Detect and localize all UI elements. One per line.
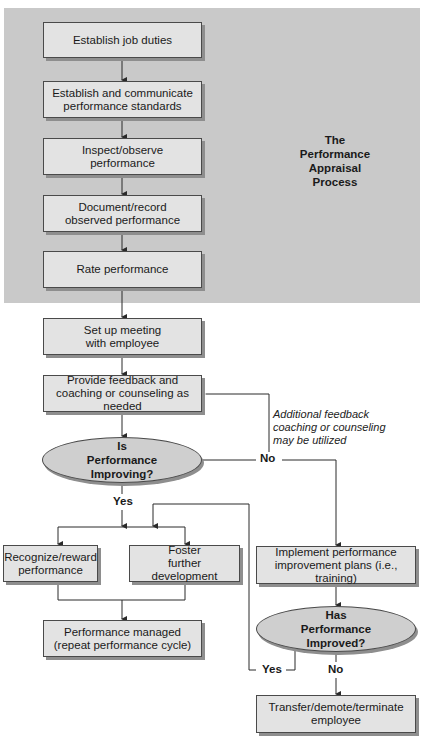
step-rate-performance: Rate performance [43,251,202,288]
step-establish-standards: Establish and communicate performance st… [43,81,202,118]
step-label: Establish job duties [73,34,172,47]
step-implement-improvement-plans: Implement performance improvement plans … [256,546,416,584]
decision-label: Is Performance Improving? [43,439,201,481]
step-foster-development: Foster further development [129,545,240,582]
step-label: Inspect/observe performance [48,144,197,170]
step-label: Performance managed (repeat performance … [48,626,197,652]
step-label: Set up meeting with employee [48,324,197,350]
decision-has-performance-improved: Has Performance Improved? [256,606,416,652]
step-provide-feedback: Provide feedback and coaching or counsel… [43,375,202,412]
decision-is-performance-improving: Is Performance Improving? [42,437,202,483]
step-setup-meeting: Set up meeting with employee [43,318,202,355]
step-label: Recognize/reward performance [4,551,97,577]
step-label: Implement performance improvement plans … [261,546,411,585]
step-establish-job-duties: Establish job duties [43,22,202,58]
feedback-loop-note: Additional feedback coaching or counseli… [273,408,393,447]
improving-no-label: No [258,452,277,464]
improved-no-label: No [326,663,345,675]
step-transfer-demote-terminate: Transfer/demote/terminate employee [256,695,416,733]
improved-yes-label: Yes [260,663,284,675]
step-label: Establish and communicate performance st… [48,87,197,113]
step-label: Rate performance [76,263,168,276]
improving-yes-label: Yes [111,495,135,507]
step-label: Document/record observed performance [48,201,197,227]
step-recognize-reward: Recognize/reward performance [3,545,98,582]
step-label: Provide feedback and coaching or counsel… [48,374,197,413]
step-label: Foster further development [134,544,236,583]
step-label: Transfer/demote/terminate employee [261,701,411,727]
decision-label: Has Performance Improved? [257,608,415,650]
step-performance-managed: Performance managed (repeat performance … [43,620,202,657]
step-inspect-performance: Inspect/observe performance [43,138,202,175]
step-document-performance: Document/record observed performance [43,195,202,232]
